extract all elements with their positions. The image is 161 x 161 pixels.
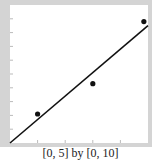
data-point	[35, 111, 40, 116]
window-caption: [0, 5] by [0, 10]	[0, 145, 161, 161]
data-point	[90, 81, 95, 86]
plot-area	[10, 5, 148, 143]
scatter-plot	[0, 0, 161, 161]
data-point	[141, 19, 146, 24]
